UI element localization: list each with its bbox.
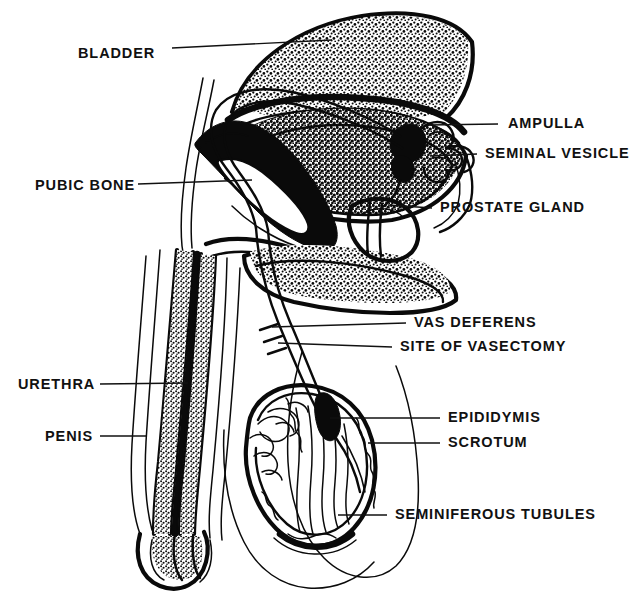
label-seminiferous-tubules: SEMINIFEROUS TUBULES [395, 506, 596, 522]
label-epididymis: EPIDIDYMIS [448, 409, 541, 425]
label-ampulla: AMPULLA [508, 115, 585, 131]
label-urethra: URETHRA [18, 376, 95, 392]
label-site-of-vasectomy: SITE OF VASECTOMY [400, 338, 566, 354]
label-scrotum: SCROTUM [448, 434, 528, 450]
diagram-canvas: BLADDERPUBIC BONEURETHRAPENISAMPULLASEMI… [0, 0, 641, 612]
label-bladder: BLADDER [78, 45, 155, 61]
anatomical-diagram-figure: BLADDERPUBIC BONEURETHRAPENISAMPULLASEMI… [0, 0, 641, 612]
label-pubic-bone: PUBIC BONE [35, 177, 135, 193]
label-prostate-gland: PROSTATE GLAND [440, 199, 585, 215]
label-seminal-vesicle: SEMINAL VESICLE [485, 145, 630, 161]
label-vas-deferens: VAS DEFERENS [414, 314, 537, 330]
label-penis: PENIS [45, 428, 93, 444]
